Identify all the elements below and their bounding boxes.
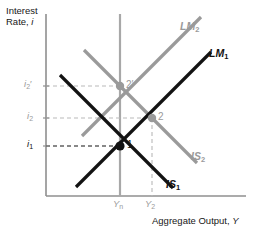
- point-label-2-prime-mark: ′: [132, 79, 134, 90]
- x-tick-label-yn: Yn: [113, 199, 123, 211]
- point-label-1: 1: [127, 139, 133, 150]
- marker-point-1: [115, 141, 124, 150]
- y-axis-title-line1: Interest: [6, 5, 38, 16]
- curve-label-lm1-sub: 1: [224, 52, 228, 61]
- curve-label-is2: IS2: [191, 151, 205, 164]
- point-label-1-text: 1: [127, 139, 133, 150]
- curve-label-is1-sub: 1: [176, 183, 180, 192]
- y-axis-title-line2: Rate,: [6, 16, 29, 27]
- curve-label-lm2: LM2: [180, 21, 199, 34]
- y-axis-title: Interest Rate, i: [6, 6, 38, 27]
- curve-label-is1: IS1: [166, 179, 180, 192]
- y-tick-prime-i2prime: ′: [30, 78, 32, 89]
- curve-label-is2-base: IS: [191, 150, 201, 162]
- islm-figure: Interest Rate, i Aggregate Output, Y i2′…: [0, 0, 267, 236]
- curve-label-lm2-base: LM: [180, 20, 195, 32]
- curve-label-lm1-base: LM: [209, 47, 224, 59]
- curve-is2: [84, 50, 197, 163]
- x-tick-sub-yn: n: [119, 203, 123, 210]
- x-axis-title: Aggregate Output, Y: [152, 216, 239, 227]
- x-tick-sub-y2: 2: [151, 203, 155, 210]
- y-tick-sub-i2: 2: [29, 115, 33, 122]
- marker-point-2-prime: [116, 82, 124, 90]
- point-label-2-prime: 2′: [126, 79, 133, 90]
- y-tick-label-i2: i2: [27, 111, 33, 123]
- x-tick-label-y2: Y2: [145, 199, 155, 211]
- x-axis-title-symbol: Y: [232, 215, 238, 226]
- point-label-2-text: 2: [158, 111, 164, 122]
- curve-label-is1-base: IS: [166, 178, 176, 190]
- y-tick-label-i2prime: i2′: [24, 79, 32, 91]
- y-tick-label-i1: i1: [27, 139, 33, 151]
- curve-label-lm2-sub: 2: [195, 25, 199, 34]
- figure-canvas: [0, 0, 267, 236]
- y-axis-title-symbol: i: [31, 16, 33, 27]
- curve-label-lm1: LM1: [209, 48, 228, 61]
- curve-label-is2-sub: 2: [201, 155, 205, 164]
- point-label-2: 2: [158, 111, 164, 122]
- curve-lm2: [82, 17, 201, 136]
- marker-point-2: [148, 114, 156, 122]
- curve-is1: [60, 75, 173, 188]
- x-axis-title-text: Aggregate Output,: [152, 215, 230, 226]
- y-tick-sub-i1: 1: [29, 143, 33, 150]
